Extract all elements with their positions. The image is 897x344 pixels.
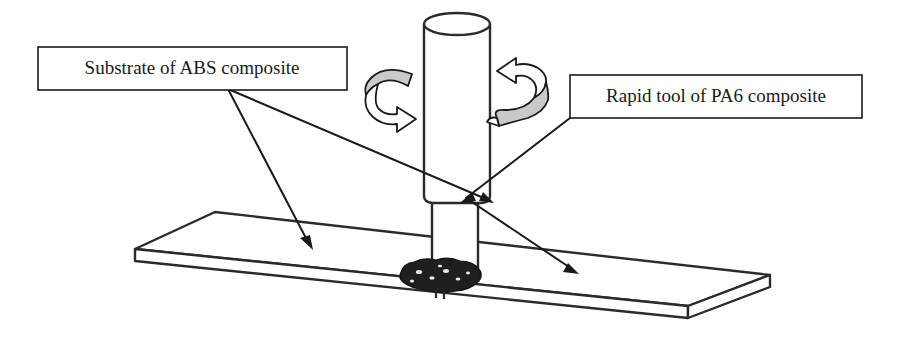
callout-substrate[interactable]: Substrate of ABS composite [38, 47, 347, 90]
weld-texture-speck [438, 265, 442, 268]
friction-stir-welding-diagram: Substrate of ABS composite Rapid tool of… [0, 0, 897, 344]
weld-texture-speck [466, 272, 470, 275]
rotation-arrow-right-body [497, 58, 546, 98]
rotation-arrow-right [487, 58, 548, 126]
weld-texture-speck [410, 280, 414, 283]
tool-barrel [424, 13, 490, 203]
weld-texture-speck [416, 270, 422, 274]
weld-texture-speck [443, 269, 449, 273]
rotation-arrow-left-body [365, 84, 416, 132]
callout-rapid-tool[interactable]: Rapid tool of PA6 composite [570, 75, 862, 118]
weld-texture-speck [429, 276, 434, 280]
callout-rapid-tool-label: Rapid tool of PA6 composite [606, 85, 826, 106]
callout-substrate-label: Substrate of ABS composite [85, 57, 300, 78]
diagram-canvas: Substrate of ABS composite Rapid tool of… [0, 0, 897, 344]
rotation-arrow-left [365, 70, 416, 132]
tool-barrel-top-cap [424, 13, 490, 35]
weld-nugget-blob [400, 258, 481, 292]
weld-texture-speck [456, 277, 461, 280]
